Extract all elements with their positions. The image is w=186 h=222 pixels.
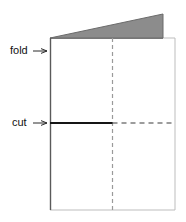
fold-cut-diagram: fold cut — [0, 0, 186, 222]
cut-label: cut — [12, 116, 27, 128]
fold-label: fold — [10, 44, 28, 56]
folded-flap-wedge — [50, 14, 163, 38]
diagram-canvas: fold cut — [0, 0, 186, 222]
